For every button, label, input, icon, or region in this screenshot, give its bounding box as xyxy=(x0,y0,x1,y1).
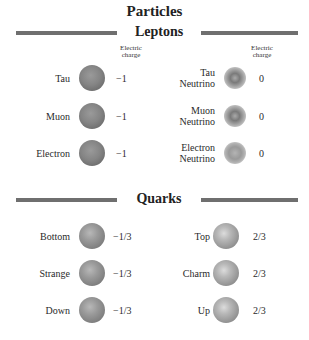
particle-label: Muon Neutrino xyxy=(160,105,215,127)
charge-header-line: charge xyxy=(111,52,151,59)
diagram-title: Particles xyxy=(0,3,309,20)
quark-sphere-icon xyxy=(213,223,239,249)
particle-label: Muon xyxy=(10,111,70,122)
charge-value: −1/3 xyxy=(113,231,131,242)
neutrino-sphere-icon xyxy=(224,67,246,89)
neutrino-sphere-icon xyxy=(224,142,246,164)
charge-value: −1 xyxy=(116,73,127,84)
particle-label: Electron xyxy=(10,148,70,159)
charge-value: −1/3 xyxy=(113,268,131,279)
leptons-left-rule xyxy=(16,31,117,35)
particle-label: Strange xyxy=(10,268,70,279)
charge-value: 2/3 xyxy=(253,305,266,316)
neutrino-sphere-icon xyxy=(224,105,246,127)
charge-value: −1 xyxy=(116,148,127,159)
charge-value: −1 xyxy=(116,111,127,122)
particle-label-line: Neutrino xyxy=(160,116,215,127)
particle-label-line: Muon xyxy=(160,105,215,116)
lepton-sphere-icon xyxy=(79,103,105,129)
leptons-heading: Leptons xyxy=(117,24,201,40)
particle-label: Tau Neutrino xyxy=(160,67,215,89)
particle-label: Bottom xyxy=(10,231,70,242)
quarks-left-rule xyxy=(16,198,117,202)
particle-label: Top xyxy=(160,231,210,242)
particle-label-line: Neutrino xyxy=(160,153,215,164)
quark-sphere-icon xyxy=(79,297,105,323)
particle-label: Up xyxy=(160,305,210,316)
quark-sphere-icon xyxy=(213,260,239,286)
quark-sphere-icon xyxy=(79,260,105,286)
charge-value: 0 xyxy=(259,73,264,84)
particle-label-line: Neutrino xyxy=(160,78,215,89)
quarks-heading: Quarks xyxy=(117,191,201,207)
particle-label: Tau xyxy=(10,73,70,84)
charge-header-line: charge xyxy=(242,52,282,59)
particle-label-line: Tau xyxy=(160,67,215,78)
charge-value: 2/3 xyxy=(253,268,266,279)
charge-value: 0 xyxy=(259,148,264,159)
particle-label: Electron Neutrino xyxy=(160,142,215,164)
particle-label: Charm xyxy=(160,268,210,279)
lepton-sphere-icon xyxy=(79,65,105,91)
charge-value: 2/3 xyxy=(253,231,266,242)
charge-value: −1/3 xyxy=(113,305,131,316)
particle-label-line: Electron xyxy=(160,142,215,153)
leptons-right-rule xyxy=(201,31,298,35)
quark-sphere-icon xyxy=(213,297,239,323)
quarks-right-rule xyxy=(201,198,298,202)
charge-header-left: Electric charge xyxy=(111,45,151,59)
quark-sphere-icon xyxy=(79,223,105,249)
particle-label: Down xyxy=(10,305,70,316)
charge-header-right: Electric charge xyxy=(242,45,282,59)
charge-value: 0 xyxy=(259,111,264,122)
lepton-sphere-icon xyxy=(79,140,105,166)
